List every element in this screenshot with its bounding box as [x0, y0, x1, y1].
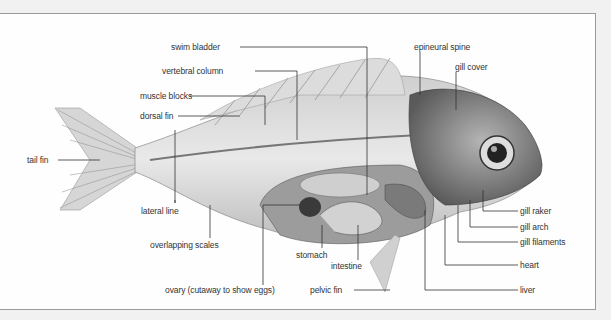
- label-vertebral-column: vertebral column: [162, 66, 223, 76]
- label-gill-arch: gill arch: [520, 222, 548, 232]
- head-shape: [409, 89, 542, 205]
- label-swim-bladder: swim bladder: [171, 42, 220, 52]
- label-epineural-spine: epineural spine: [414, 42, 470, 52]
- pelvic-fin-shape: [370, 235, 400, 292]
- label-lateral-line: lateral line: [141, 206, 179, 216]
- label-liver: liver: [520, 285, 535, 295]
- label-gill-filaments: gill filaments: [520, 237, 565, 247]
- label-intestine: intestine: [331, 261, 362, 271]
- label-gill-cover: gill cover: [455, 62, 488, 72]
- label-dorsal-fin: dorsal fin: [140, 111, 174, 121]
- label-ovary: ovary (cutaway to show eggs): [165, 285, 275, 295]
- tail-fin-shape: [55, 108, 140, 210]
- label-pelvic-fin: pelvic fin: [310, 285, 342, 295]
- fish-illustration: [0, 0, 611, 320]
- label-heart: heart: [520, 260, 539, 270]
- label-muscle-blocks: muscle blocks: [140, 91, 192, 101]
- label-tail-fin: tail fin: [27, 155, 48, 165]
- label-overlapping-scales: overlapping scales: [150, 240, 219, 250]
- label-stomach: stomach: [296, 250, 327, 260]
- label-gill-raker: gill raker: [520, 206, 551, 216]
